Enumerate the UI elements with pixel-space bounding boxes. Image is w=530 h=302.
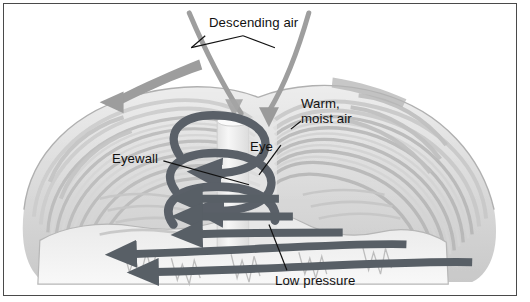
label-eyewall: Eyewall (112, 151, 158, 166)
hurricane-diagram-figure: Descending air Warm, moist air Eye Eyewa… (0, 0, 530, 302)
leader-low-pressure (269, 224, 287, 270)
diagram-frame: Descending air Warm, moist air Eye Eyewa… (3, 3, 517, 296)
label-low-pressure: Low pressure (275, 273, 355, 288)
label-warm-moist-air: Warm, moist air (301, 96, 352, 126)
leader-descending-right (243, 36, 275, 48)
label-descending-air: Descending air (209, 15, 298, 30)
leader-warm-moist-air (291, 121, 301, 129)
leader-eyewall (163, 161, 249, 185)
label-eye: Eye (250, 139, 273, 154)
diagram-scene: Descending air Warm, moist air Eye Eyewa… (4, 4, 516, 295)
